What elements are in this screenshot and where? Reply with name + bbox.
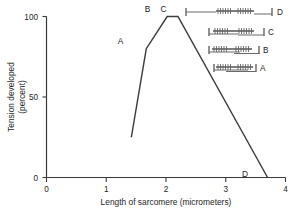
tension-curve [131,17,267,178]
sarcomere-label-b: B [263,46,269,55]
length-tension-figure: 100 50 0 0 1 2 3 4 Length of sarcomere (… [0,0,292,211]
x-tick-label-4: 4 [283,185,288,194]
sarcomere-diagram-d: D [186,8,283,17]
x-tick-label-0: 0 [44,185,49,194]
curve-label-c: C [160,4,166,14]
curve-point-labels: A B C D [118,4,248,179]
y-tick-label-50: 50 [29,93,39,102]
axes-group [43,17,286,183]
y-tick-label-0: 0 [33,174,38,183]
x-tick-labels: 0 1 2 3 4 [44,185,288,194]
curve-label-b: B [145,4,151,14]
x-axis-title: Length of sarcomere (micrometers) [101,197,232,207]
y-tick-label-100: 100 [24,13,38,22]
sarcomere-diagram-a: A [214,64,266,73]
curve-label-d: D [242,169,248,179]
sarcomere-label-c: C [268,28,274,37]
sarcomere-diagram-c: C [209,28,274,37]
x-tick-label-2: 2 [164,185,169,194]
y-axis-title-line2: (percent) [17,80,27,114]
y-axis-title-line1: Tension developed [6,62,16,132]
sarcomere-diagram-b: B [209,46,269,55]
x-tick-label-1: 1 [104,185,109,194]
sarcomere-label-d: D [277,8,283,17]
x-tick-label-3: 3 [223,185,228,194]
sarcomere-label-a: A [260,64,266,73]
plot-canvas: 100 50 0 0 1 2 3 4 Length of sarcomere (… [0,0,292,211]
curve-label-a: A [118,36,124,46]
